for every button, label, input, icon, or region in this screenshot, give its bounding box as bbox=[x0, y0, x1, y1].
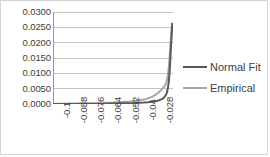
chart-container: 0.03000.02500.02000.01500.01000.00500.00… bbox=[0, 0, 268, 155]
y-axis-tick-label: 0.0000 bbox=[3, 99, 51, 109]
x-axis-tick-label: -0.052 bbox=[131, 97, 141, 123]
y-axis-tick-label: 0.0150 bbox=[3, 53, 51, 63]
legend-swatch-icon bbox=[183, 66, 207, 68]
legend-label: Empirical bbox=[210, 82, 255, 94]
y-axis-tick-label: 0.0050 bbox=[3, 84, 51, 94]
x-axis-tick: -0.04 bbox=[142, 106, 154, 154]
x-axis-tick-label: -0.028 bbox=[165, 97, 175, 123]
x-axis-tick-label: -0.076 bbox=[96, 97, 106, 123]
x-axis-tick: -0.028 bbox=[159, 106, 171, 154]
x-axis-tick-label: -0.064 bbox=[113, 97, 123, 123]
y-axis-tick-label: 0.0300 bbox=[3, 7, 51, 17]
legend-swatch-icon bbox=[183, 87, 207, 89]
series-line-normal-fit bbox=[53, 24, 172, 104]
x-axis-tick: -0.1 bbox=[56, 106, 68, 154]
legend-item-normal-fit[interactable]: Normal Fit bbox=[183, 59, 269, 75]
x-axis-tick-label: -0.1 bbox=[62, 102, 72, 118]
plot-area bbox=[53, 12, 173, 104]
x-axis-tick: -0.076 bbox=[90, 106, 102, 154]
x-axis-tick: -0.064 bbox=[107, 106, 119, 154]
legend-label: Normal Fit bbox=[210, 61, 261, 73]
x-axis: -0.1-0.088-0.076-0.064-0.052-0.04-0.028 bbox=[53, 106, 175, 156]
legend-item-empirical[interactable]: Empirical bbox=[183, 80, 269, 96]
y-axis-tick-label: 0.0250 bbox=[3, 22, 51, 32]
plot-svg bbox=[53, 12, 173, 104]
x-axis-tick-label: -0.088 bbox=[79, 97, 89, 123]
x-axis-tick-label: -0.04 bbox=[148, 99, 158, 120]
series-line-empirical bbox=[53, 24, 172, 104]
chart-legend: Normal FitEmpirical bbox=[183, 59, 269, 105]
y-axis: 0.03000.02500.02000.01500.01000.00500.00… bbox=[3, 6, 51, 110]
x-axis-tick: -0.052 bbox=[125, 106, 137, 154]
y-axis-tick-label: 0.0200 bbox=[3, 38, 51, 48]
x-axis-tick: -0.088 bbox=[73, 106, 85, 154]
y-axis-tick-label: 0.0100 bbox=[3, 68, 51, 78]
